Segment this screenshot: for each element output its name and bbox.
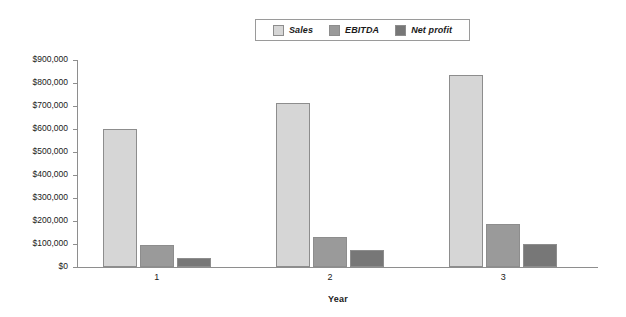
y-tick-mark — [73, 175, 78, 176]
y-tick-label: $700,000 — [33, 100, 68, 110]
bar-net-profit — [523, 244, 557, 267]
y-tick-mark — [73, 152, 78, 153]
bar-group — [276, 60, 384, 267]
x-tick-label: 3 — [483, 272, 523, 282]
y-tick-label: $400,000 — [33, 169, 68, 179]
legend-label-sales: Sales — [289, 25, 313, 35]
y-tick-label: $900,000 — [33, 54, 68, 64]
bar-sales — [449, 75, 483, 267]
y-tick-mark — [73, 221, 78, 222]
x-tick-label: 1 — [137, 272, 177, 282]
legend-swatch-net-profit — [395, 25, 406, 36]
bar-group — [449, 60, 557, 267]
chart-legend: Sales EBITDA Net profit — [255, 19, 470, 41]
x-axis-title: Year — [78, 294, 598, 304]
bar-ebitda — [140, 245, 174, 267]
legend-label-ebitda: EBITDA — [345, 25, 379, 35]
bar-ebitda — [313, 237, 347, 267]
y-tick-mark — [73, 198, 78, 199]
legend-label-net-profit: Net profit — [411, 25, 452, 35]
x-axis-line — [78, 267, 598, 268]
bar-net-profit — [350, 250, 384, 267]
bar-ebitda — [486, 224, 520, 267]
y-tick-mark — [73, 60, 78, 61]
y-tick-mark — [73, 244, 78, 245]
bar-net-profit — [177, 258, 211, 267]
y-tick-label: $800,000 — [33, 77, 68, 87]
legend-swatch-ebitda — [329, 25, 340, 36]
y-tick-label: $200,000 — [33, 215, 68, 225]
y-tick-mark — [73, 267, 78, 268]
legend-swatch-sales — [273, 25, 284, 36]
y-tick-mark — [73, 83, 78, 84]
y-tick-mark — [73, 129, 78, 130]
legend-item-sales: Sales — [273, 25, 313, 36]
y-tick-label: $500,000 — [33, 146, 68, 156]
y-tick-label: $100,000 — [33, 238, 68, 248]
legend-item-ebitda: EBITDA — [329, 25, 379, 36]
bar-sales — [276, 103, 310, 267]
x-tick-label: 2 — [310, 272, 350, 282]
plot-area: $0$100,000$200,000$300,000$400,000$500,0… — [78, 60, 598, 267]
y-tick-mark — [73, 106, 78, 107]
bar-chart: Sales EBITDA Net profit $0$100,000$200,0… — [0, 0, 626, 317]
y-axis-line — [77, 60, 78, 268]
y-tick-label: $0 — [59, 261, 68, 271]
y-tick-label: $300,000 — [33, 192, 68, 202]
bar-sales — [103, 129, 137, 267]
legend-item-net-profit: Net profit — [395, 25, 452, 36]
bar-group — [103, 60, 211, 267]
y-tick-label: $600,000 — [33, 123, 68, 133]
